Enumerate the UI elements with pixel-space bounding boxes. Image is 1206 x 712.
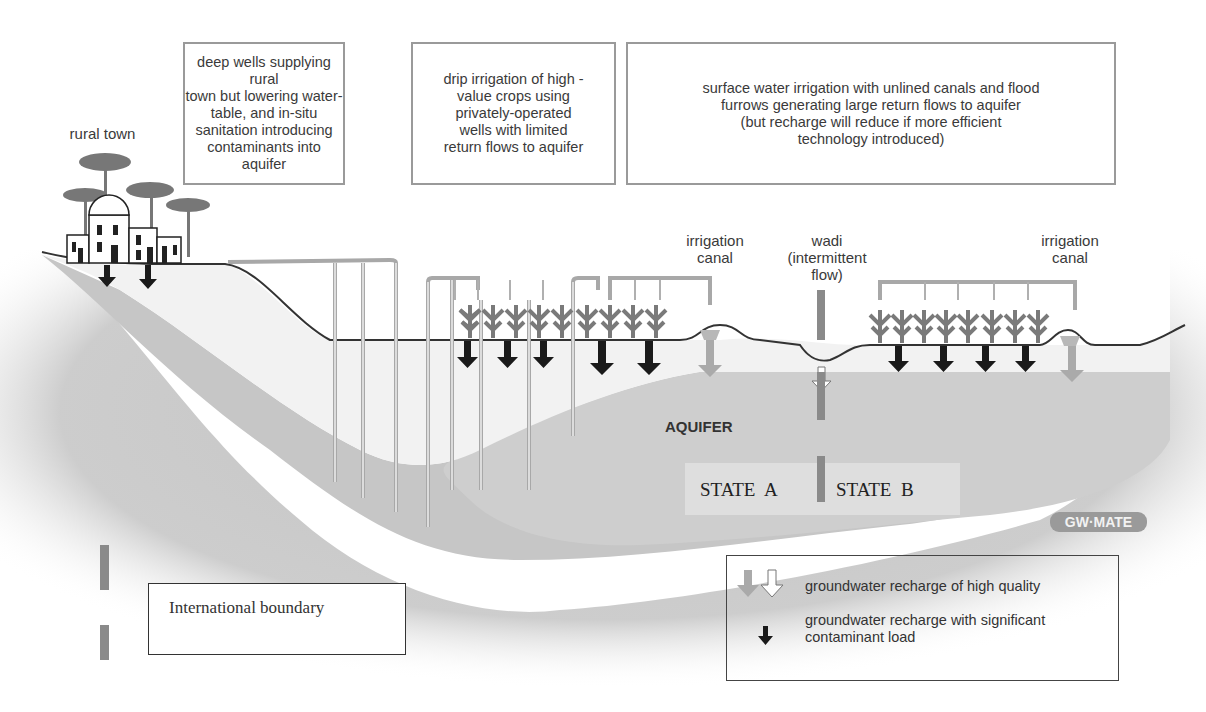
- label-wadi: wadi (intermittent flow): [772, 232, 882, 283]
- label-state-b: STATE B: [836, 479, 946, 501]
- legend-item-contaminant: groundwater recharge with significant co…: [805, 612, 1045, 646]
- label-irrigation-canal-right: irrigation canal: [1020, 232, 1120, 266]
- info-box-deep-wells-text: deep wells supplying rural town but lowe…: [185, 54, 343, 173]
- boundary-marker-upper: [817, 290, 825, 340]
- legend-boundary-marker-2: [100, 625, 109, 660]
- legend-item-high-quality: groundwater recharge of high quality: [805, 578, 1040, 594]
- boundary-marker-state: [817, 456, 825, 502]
- info-box-surface-irrigation: surface water irrigation with unlined ca…: [626, 42, 1116, 185]
- legend-boundary-marker-1: [100, 545, 109, 590]
- logo-gw-mate: GW·MATE: [1050, 514, 1147, 531]
- recharge-legend-box: groundwater recharge of high quality gro…: [726, 555, 1119, 681]
- info-box-drip-irrigation-text: drip irrigation of high - value crops us…: [443, 71, 583, 156]
- label-aquifer: AQUIFER: [665, 418, 745, 435]
- boundary-legend-text: International boundary: [169, 598, 324, 618]
- info-box-deep-wells: deep wells supplying rural town but lowe…: [183, 42, 345, 185]
- info-box-surface-irrigation-text: surface water irrigation with unlined ca…: [703, 80, 1040, 148]
- label-irrigation-canal-left: irrigation canal: [665, 232, 765, 266]
- info-box-drip-irrigation: drip irrigation of high - value crops us…: [411, 42, 616, 185]
- label-state-a: STATE A: [700, 479, 810, 501]
- boundary-legend-box: International boundary: [148, 583, 406, 655]
- boundary-marker-lower: [817, 372, 825, 420]
- label-rural-town: rural town: [40, 125, 165, 142]
